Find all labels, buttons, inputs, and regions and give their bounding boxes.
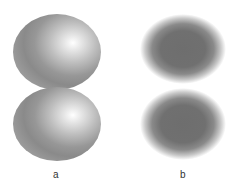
panel-label-a: a — [53, 170, 59, 180]
panel-label-b: b — [180, 170, 186, 180]
shaded-sphere-top — [13, 14, 101, 90]
blurred-ellipse-bottom — [140, 88, 226, 160]
shaded-sphere-bottom — [13, 87, 101, 161]
blurred-ellipse-top — [140, 14, 226, 84]
